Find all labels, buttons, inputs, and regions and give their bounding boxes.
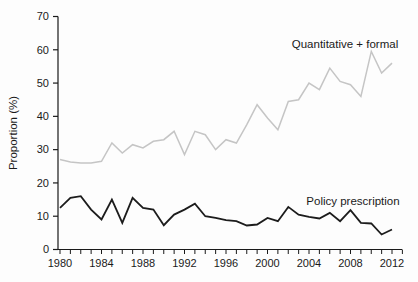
x-tick-label: 2000 <box>255 257 279 269</box>
series-label-quantitative-formal: Quantitative + formal <box>292 38 398 50</box>
y-tick-label: 50 <box>37 77 49 89</box>
y-tick-label: 30 <box>37 143 49 155</box>
x-tick-label: 1988 <box>131 257 155 269</box>
y-axis-title: Proportion (%) <box>7 96 19 170</box>
y-axis-ticks: 010203040506070 <box>37 10 58 255</box>
series-annotations: Quantitative + formalPolicy prescription <box>292 38 400 207</box>
y-tick-label: 70 <box>37 10 49 22</box>
x-tick-label: 2004 <box>297 257 321 269</box>
axis-line <box>58 17 402 250</box>
y-tick-label: 40 <box>37 110 49 122</box>
chart-figure: 010203040506070 198019841988199219962000… <box>0 0 418 282</box>
y-tick-label: 0 <box>43 243 49 255</box>
axes <box>58 17 402 250</box>
x-tick-label: 1992 <box>172 257 196 269</box>
x-tick-label: 2012 <box>380 257 404 269</box>
x-axis-ticks: 198019841988199219962000200420082012 <box>48 250 404 269</box>
x-tick-label: 1980 <box>48 257 72 269</box>
y-tick-label: 60 <box>37 44 49 56</box>
x-tick-label: 1984 <box>89 257 113 269</box>
line-chart: 010203040506070 198019841988199219962000… <box>0 0 418 282</box>
y-tick-label: 10 <box>37 210 49 222</box>
x-tick-label: 2008 <box>338 257 362 269</box>
x-tick-label: 1996 <box>214 257 238 269</box>
y-tick-label: 20 <box>37 177 49 189</box>
series-lines <box>60 51 392 234</box>
series-line-quantitative-formal <box>60 51 392 163</box>
series-label-policy-prescription: Policy prescription <box>306 195 399 207</box>
